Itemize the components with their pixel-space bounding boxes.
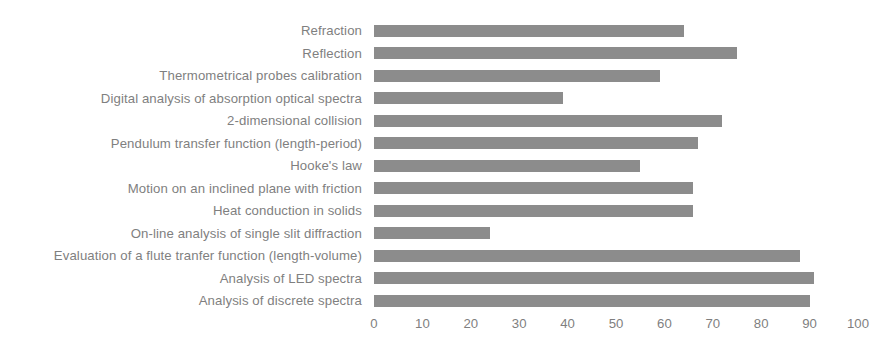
bar xyxy=(374,182,693,194)
bar-category-label: Hooke's law xyxy=(0,159,362,173)
x-axis-tick-label: 60 xyxy=(657,316,672,332)
bar-row: Refraction xyxy=(0,20,896,43)
bar-track xyxy=(374,205,693,217)
bar xyxy=(374,70,660,82)
bar-category-label: Reflection xyxy=(0,47,362,61)
bar xyxy=(374,205,693,217)
bar-track xyxy=(374,272,814,284)
bar-category-label: On-line analysis of single slit diffract… xyxy=(0,227,362,241)
bar-row: Reflection xyxy=(0,42,896,65)
bar-category-label: Motion on an inclined plane with frictio… xyxy=(0,182,362,196)
bar-track xyxy=(374,115,722,127)
x-axis-tick-label: 100 xyxy=(847,316,869,332)
bar-track xyxy=(374,160,640,172)
bar xyxy=(374,250,800,262)
bar-track xyxy=(374,295,810,307)
bar-category-label: Analysis of LED spectra xyxy=(0,272,362,286)
bar xyxy=(374,92,563,104)
bar-track xyxy=(374,47,737,59)
bar-row: Analysis of LED spectra xyxy=(0,267,896,290)
bar-row: Analysis of discrete spectra xyxy=(0,290,896,313)
bar-row: Hooke's law xyxy=(0,155,896,178)
bar-track xyxy=(374,250,800,262)
x-axis-tick-label: 90 xyxy=(802,316,817,332)
bar-category-label: 2-dimensional collision xyxy=(0,114,362,128)
bar-category-label: Evaluation of a flute tranfer function (… xyxy=(0,249,362,263)
bar-row: Pendulum transfer function (length-perio… xyxy=(0,132,896,155)
x-axis: 0102030405060708090100 xyxy=(0,316,896,340)
bar xyxy=(374,47,737,59)
bar-category-label: Thermometrical probes calibration xyxy=(0,69,362,83)
bar-track xyxy=(374,92,563,104)
bar-track xyxy=(374,70,660,82)
bar xyxy=(374,115,722,127)
x-axis-tick-label: 80 xyxy=(754,316,769,332)
bar-row: On-line analysis of single slit diffract… xyxy=(0,222,896,245)
bar-row: Thermometrical probes calibration xyxy=(0,65,896,88)
bar xyxy=(374,227,490,239)
bar-row: Motion on an inclined plane with frictio… xyxy=(0,177,896,200)
bar-category-label: Analysis of discrete spectra xyxy=(0,294,362,308)
x-axis-tick-label: 10 xyxy=(415,316,430,332)
bar-category-label: Pendulum transfer function (length-perio… xyxy=(0,137,362,151)
bar-category-label: Digital analysis of absorption optical s… xyxy=(0,92,362,106)
bar-track xyxy=(374,137,698,149)
bar xyxy=(374,137,698,149)
bar xyxy=(374,272,814,284)
bar-category-label: Refraction xyxy=(0,24,362,38)
chart-plot-area: RefractionReflectionThermometrical probe… xyxy=(0,0,896,310)
bar-track xyxy=(374,227,490,239)
x-axis-tick-label: 40 xyxy=(560,316,575,332)
bar xyxy=(374,295,810,307)
x-axis-tick-label: 70 xyxy=(705,316,720,332)
bar-row: Digital analysis of absorption optical s… xyxy=(0,87,896,110)
x-axis-tick-label: 0 xyxy=(370,316,377,332)
bar-track xyxy=(374,182,693,194)
bar-track xyxy=(374,25,684,37)
bar-category-label: Heat conduction in solids xyxy=(0,204,362,218)
x-axis-tick-label: 50 xyxy=(609,316,624,332)
bar-row: 2-dimensional collision xyxy=(0,110,896,133)
bar-row: Evaluation of a flute tranfer function (… xyxy=(0,245,896,268)
horizontal-bar-chart: RefractionReflectionThermometrical probe… xyxy=(0,0,896,361)
bar xyxy=(374,160,640,172)
bar xyxy=(374,25,684,37)
x-axis-tick-label: 20 xyxy=(463,316,478,332)
x-axis-tick-label: 30 xyxy=(512,316,527,332)
bar-row: Heat conduction in solids xyxy=(0,200,896,223)
